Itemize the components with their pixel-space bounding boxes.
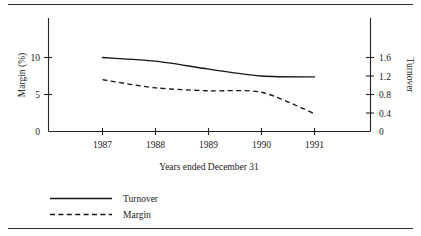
right-tick-label-1-2: 1.2 [379,72,391,82]
left-tick-label-0: 0 [35,127,40,137]
left-tick-label-5: 5 [35,90,40,100]
legend-label-turnover: Turnover [123,194,159,204]
axis-group [49,18,371,132]
legend-label-margin: Margin [123,210,151,220]
right-tick-label-1-6: 1.6 [379,53,391,63]
series-line-margin [103,80,315,114]
left-axis-title: Margin (%) [17,53,28,97]
line-chart: 10 5 0 Margin (%) 1.6 1.2 0.8 0.4 0 Turn… [0,0,421,236]
series-line-turnover [103,58,315,77]
x-axis-title: Years ended December 31 [159,162,259,172]
x-tick-label-1988: 1988 [146,140,165,150]
legend: Turnover Margin [50,194,159,220]
right-tick-label-0-8: 0.8 [379,90,391,100]
x-tick-label-1991: 1991 [305,140,324,150]
right-axis-title: Turnover [405,57,415,93]
x-tick-label-1990: 1990 [252,140,271,150]
right-tick-label-0: 0 [379,127,384,137]
right-tick-label-0-4: 0.4 [379,109,391,119]
x-tick-label-1987: 1987 [93,140,112,150]
left-tick-label-10: 10 [31,53,41,63]
figure-container: 10 5 0 Margin (%) 1.6 1.2 0.8 0.4 0 Turn… [0,0,421,236]
x-tick-label-1989: 1989 [199,140,218,150]
